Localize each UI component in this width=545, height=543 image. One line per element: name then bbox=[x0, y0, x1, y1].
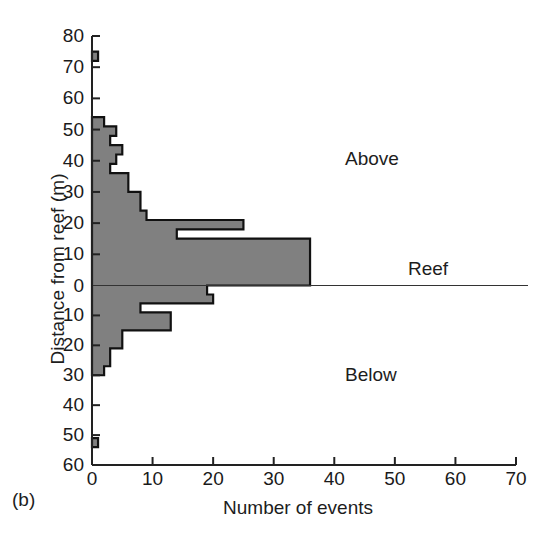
x-axis-label: Number of events bbox=[92, 497, 504, 519]
y-tick-label-50-below: 50 bbox=[34, 424, 84, 446]
x-tick-label-70: 70 bbox=[505, 468, 526, 490]
y-tick-label-20: 20 bbox=[34, 212, 84, 234]
x-tick-label-30: 30 bbox=[263, 468, 284, 490]
y-tick-label-50: 50 bbox=[34, 119, 84, 141]
histogram-bars bbox=[92, 52, 310, 447]
x-tick-label-0: 0 bbox=[87, 468, 98, 490]
y-tick-label-30-below: 30 bbox=[34, 364, 84, 386]
y-tick-label-60-below: 60 bbox=[34, 454, 84, 476]
y-tick-label-70: 70 bbox=[34, 56, 84, 78]
y-tick-label-60: 60 bbox=[34, 87, 84, 109]
y-tick-label-0: 0 bbox=[34, 275, 84, 297]
y-tick-label-80: 80 bbox=[34, 25, 84, 47]
x-tick-label-40: 40 bbox=[324, 468, 345, 490]
histogram-figure: Distance from reef (m) Number of events … bbox=[0, 0, 545, 543]
y-tick-label-10-below: 10 bbox=[34, 304, 84, 326]
y-tick-label-20-below: 20 bbox=[34, 334, 84, 356]
reef-annotation: Reef bbox=[408, 258, 448, 280]
histogram-bar-run bbox=[92, 117, 310, 375]
y-tick-label-30: 30 bbox=[34, 181, 84, 203]
x-tick-label-50: 50 bbox=[384, 468, 405, 490]
x-tick-label-20: 20 bbox=[203, 468, 224, 490]
x-tick-label-10: 10 bbox=[142, 468, 163, 490]
region-label-below: Below bbox=[345, 364, 397, 386]
y-tick-label-10: 10 bbox=[34, 243, 84, 265]
y-tick-label-40-below: 40 bbox=[34, 394, 84, 416]
x-tick-label-60: 60 bbox=[445, 468, 466, 490]
region-label-above: Above bbox=[345, 148, 399, 170]
panel-tag: (b) bbox=[12, 489, 35, 511]
y-tick-label-40: 40 bbox=[34, 150, 84, 172]
